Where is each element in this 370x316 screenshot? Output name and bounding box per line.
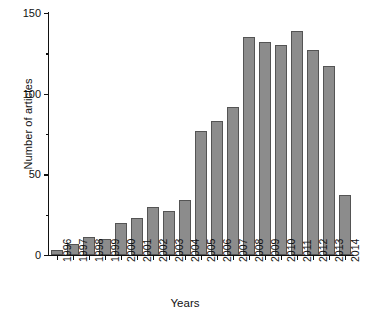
y-tick-label: 50	[29, 168, 41, 180]
y-tick-label: 0	[35, 249, 41, 261]
bar-2011	[291, 31, 304, 255]
x-tick-2000	[121, 255, 122, 260]
x-tick-label-1999: 1999	[109, 239, 121, 262]
x-tick-label-2005: 2005	[205, 239, 217, 262]
plot-area: 050100150	[49, 13, 353, 255]
y-tick-label: 100	[23, 88, 41, 100]
x-axis-title: Years	[0, 297, 370, 309]
x-tick-2005	[201, 255, 202, 260]
y-tick-minor	[46, 215, 49, 216]
bar-2010	[275, 45, 288, 255]
x-tick-label-2013: 2013	[333, 239, 345, 262]
x-tick-label-1998: 1998	[93, 239, 105, 262]
x-tick-label-1997: 1997	[77, 239, 89, 262]
bar-2008	[243, 37, 256, 255]
x-tick-2011	[297, 255, 298, 260]
y-tick-major	[44, 94, 49, 95]
x-tick-label-2010: 2010	[285, 239, 297, 262]
x-tick-label-2011: 2011	[301, 239, 313, 262]
bar-2013	[323, 66, 336, 255]
x-tick-1997	[73, 255, 74, 260]
bar-2005	[195, 131, 208, 255]
y-axis-title: Number of articles	[22, 34, 34, 214]
x-tick-2006	[217, 255, 218, 260]
x-tick-2004	[185, 255, 186, 260]
bar-2009	[259, 42, 272, 255]
y-tick-major	[44, 13, 49, 14]
x-tick-2010	[281, 255, 282, 260]
y-tick-major	[44, 255, 49, 256]
x-tick-label-2001: 2001	[141, 239, 153, 262]
y-tick-minor	[46, 134, 49, 135]
bar-chart: Number of articles 050100150 Years 19961…	[0, 0, 370, 316]
x-tick-1999	[105, 255, 106, 260]
x-tick-label-2012: 2012	[317, 239, 329, 262]
y-tick-minor	[46, 53, 49, 54]
y-tick-major	[44, 174, 49, 175]
y-tick-label: 150	[23, 7, 41, 19]
x-tick-2002	[153, 255, 154, 260]
bar-2007	[227, 107, 240, 255]
bar-2012	[307, 50, 320, 255]
x-tick-label-2009: 2009	[269, 239, 281, 262]
x-tick-label-2008: 2008	[253, 239, 265, 262]
x-tick-2012	[313, 255, 314, 260]
x-tick-1998	[89, 255, 90, 260]
x-tick-2001	[137, 255, 138, 260]
x-tick-label-2002: 2002	[157, 239, 169, 262]
x-tick-2014	[345, 255, 346, 260]
x-tick-2007	[233, 255, 234, 260]
x-tick-2013	[329, 255, 330, 260]
x-tick-label-2007: 2007	[237, 239, 249, 262]
x-tick-label-2000: 2000	[125, 239, 137, 262]
x-tick-1996	[57, 255, 58, 260]
x-tick-label-1996: 1996	[61, 239, 73, 262]
x-tick-2003	[169, 255, 170, 260]
x-tick-2008	[249, 255, 250, 260]
x-tick-label-2006: 2006	[221, 239, 233, 262]
bar-2006	[211, 121, 224, 255]
x-tick-label-2004: 2004	[189, 239, 201, 262]
x-tick-2009	[265, 255, 266, 260]
x-tick-label-2014: 2014	[349, 239, 361, 262]
x-tick-label-2003: 2003	[173, 239, 185, 262]
